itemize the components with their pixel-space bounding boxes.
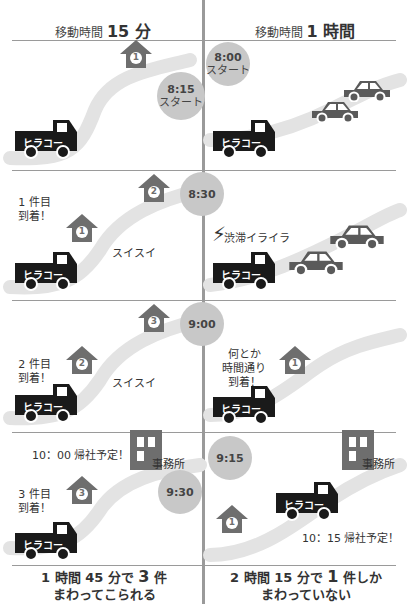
truck-icon: ヒラコー — [15, 520, 83, 562]
truck-label: ヒラコー — [23, 399, 63, 414]
clock-time: 9:30 — [166, 486, 193, 499]
traffic-label: 渋滞イライラ — [224, 229, 290, 245]
car-icon — [328, 222, 386, 250]
callout-line: 2 件目 — [18, 358, 51, 372]
clock-badge: 8:30 — [180, 172, 224, 216]
arrival-callout: 1 件目 到着！ — [18, 196, 51, 224]
clock-time: 9:00 — [188, 318, 215, 331]
return-note: 10：15 帰社予定！ — [302, 529, 400, 545]
clock-time: 8:30 — [188, 188, 215, 201]
summary-count: 1 — [327, 567, 338, 586]
office-label: 事務所 — [152, 455, 185, 471]
office-label: 事務所 — [362, 455, 395, 471]
right-summary: 2 時間 15 分で 1 件しか まわっていない — [206, 568, 406, 603]
summary-line2: まわっていない — [206, 586, 406, 603]
summary-line1: 2 時間 15 分で 1 件しか — [206, 568, 406, 586]
house-icon: 2 — [138, 174, 170, 202]
house-icon: 1 — [120, 40, 152, 68]
car-icon — [310, 99, 360, 123]
truck-label: ヒラコー — [221, 267, 261, 282]
return-note: 10：00 帰社予定！ — [32, 446, 130, 462]
clock-time: 9:15 — [216, 452, 243, 465]
house-icon: 3 — [66, 476, 98, 504]
clock-time: 8:15 — [167, 83, 194, 96]
traffic-label: スイスイ — [112, 374, 156, 390]
truck-icon: ヒラコー — [213, 250, 281, 292]
summary-text: 1 時間 45 分で — [41, 570, 138, 585]
truck-label: ヒラコー — [221, 135, 261, 150]
truck-icon: ヒラコー — [15, 250, 83, 292]
summary-count: 3 — [138, 567, 149, 586]
truck-icon: ヒラコー — [15, 118, 83, 160]
clock-badge: 9:30 — [158, 470, 202, 514]
clock-badge: 8:15 スタート — [157, 72, 205, 120]
clock-badge: 9:15 — [208, 436, 252, 480]
house-icon: 1 — [216, 505, 248, 533]
callout-line: 3 件目 — [18, 488, 51, 502]
house-number: 1 — [120, 52, 152, 62]
clock-badge: 9:00 — [180, 302, 224, 346]
house-number: 3 — [66, 488, 98, 498]
summary-text: 件しか — [338, 570, 382, 585]
callout-line: 時間通り — [222, 362, 266, 376]
clock-time: 8:00 — [214, 51, 241, 64]
arrival-callout: 3 件目 到着！ — [18, 488, 51, 516]
house-icon: 1 — [279, 346, 311, 374]
callout-line: 1 件目 — [18, 196, 51, 210]
truck-icon: ヒラコー — [213, 118, 281, 160]
left-summary: 1 時間 45 分で 3 件 まわってこられる — [4, 568, 204, 603]
summary-text: 件 — [149, 570, 167, 585]
clock-sub: スタート — [159, 96, 203, 109]
clock-sub: スタート — [206, 64, 250, 77]
house-number: 1 — [279, 358, 311, 368]
callout-line: 到着！ — [18, 502, 51, 516]
truck-label: ヒラコー — [23, 537, 63, 552]
truck-label: ヒラコー — [221, 401, 261, 416]
truck-icon: ヒラコー — [276, 480, 344, 522]
truck-icon: ヒラコー — [213, 384, 281, 426]
summary-line1: 1 時間 45 分で 3 件 — [4, 568, 204, 586]
truck-label: ヒラコー — [23, 267, 63, 282]
callout-line: 到着！ — [18, 210, 51, 224]
summary-line2: まわってこられる — [4, 586, 204, 603]
house-number: 3 — [138, 316, 170, 326]
house-number: 2 — [66, 358, 98, 368]
house-icon: 2 — [66, 346, 98, 374]
truck-label: ヒラコー — [23, 135, 63, 150]
house-icon: 3 — [138, 304, 170, 332]
callout-line: 何とか — [222, 348, 266, 362]
house-number: 1 — [66, 226, 98, 236]
clock-badge: 8:00 スタート — [206, 42, 250, 86]
truck-icon: ヒラコー — [15, 382, 83, 424]
house-icon: 1 — [66, 214, 98, 242]
house-number: 2 — [138, 186, 170, 196]
truck-label: ヒラコー — [284, 497, 324, 512]
car-icon — [287, 248, 345, 276]
house-number: 1 — [216, 517, 248, 527]
traffic-label: スイスイ — [112, 244, 156, 260]
summary-text: 2 時間 15 分で — [230, 570, 327, 585]
